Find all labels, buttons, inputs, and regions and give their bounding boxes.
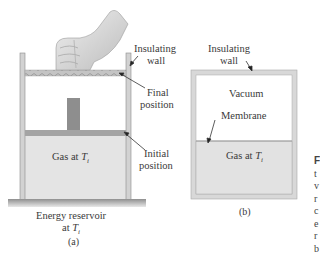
initial-position-piston xyxy=(25,130,126,136)
label-vacuum: Vacuum xyxy=(229,88,263,100)
label-gas-a: Gas at Ti xyxy=(52,151,89,167)
weight-block xyxy=(67,98,80,130)
label-gas-b: Gas at Ti xyxy=(226,150,263,166)
label-energy-reservoir: Energy reservoir at Ti xyxy=(36,210,106,238)
hand-icon xyxy=(56,10,128,70)
label-insulating-wall-a: Insulating wall xyxy=(134,43,176,67)
left-insulating-wall xyxy=(20,53,25,200)
label-final-position: Final position xyxy=(140,87,174,111)
gas-region-a xyxy=(25,136,126,199)
label-initial-position: Initial position xyxy=(139,148,173,172)
side-text-fragment: F t v r c e r b xyxy=(314,155,320,255)
label-insulating-wall-b: Insulating wall xyxy=(208,43,250,67)
gas-region-b xyxy=(196,141,292,194)
caption-b: (b) xyxy=(239,206,251,217)
label-membrane: Membrane xyxy=(221,110,266,122)
right-insulating-wall xyxy=(126,53,131,200)
caption-a: (a) xyxy=(68,236,79,247)
final-position-piston xyxy=(25,70,126,76)
energy-reservoir xyxy=(8,199,146,207)
